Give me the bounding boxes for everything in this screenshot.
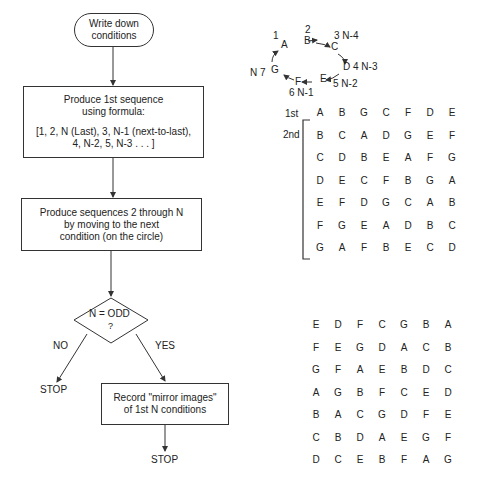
cell: G [371,404,393,427]
cell: C [397,192,419,215]
circle-node-f: F [295,76,301,87]
cell: D [393,404,415,427]
cell: E [393,427,415,450]
cell: G [327,382,349,405]
cell: B [397,170,419,193]
step1-line1: Produce 1st sequence [64,94,164,106]
cell: E [305,314,327,337]
cell: C [441,215,463,238]
cell: F [349,314,371,337]
cell: D [375,125,397,148]
cell: A [419,192,441,215]
cell: B [375,237,397,260]
cell: C [393,382,415,405]
cell: A [349,359,371,382]
cell: C [349,404,371,427]
step2-line3: condition (on the circle) [60,231,163,243]
start-terminal: Write down conditions [74,13,154,47]
circle-label-f: 6 N-1 [289,87,313,98]
cell: F [393,449,415,472]
cell: F [415,404,437,427]
cell: G [331,215,353,238]
decision-text-2: ? [108,321,113,331]
start-line1: Write down [89,18,139,30]
cell: A [327,404,349,427]
cell: C [419,237,441,260]
decision-text-1: N = ODD [89,308,130,319]
cell: G [309,237,331,260]
cell: G [353,102,375,125]
cell: C [305,427,327,450]
cell: C [375,102,397,125]
cell: G [419,170,441,193]
cell: G [397,125,419,148]
cell: F [397,102,419,125]
cell: G [437,449,459,472]
cell: G [375,192,397,215]
circle-label-e: 5 N-2 [333,78,357,89]
cell: A [331,237,353,260]
cell: C [353,170,375,193]
cell: F [419,147,441,170]
cell: C [331,125,353,148]
cell: E [375,147,397,170]
cell: A [375,215,397,238]
step-sequences-2-to-n: Produce sequences 2 through N by moving … [21,198,202,251]
cell: D [327,314,349,337]
cell: B [305,404,327,427]
cell: E [415,382,437,405]
cell: D [349,427,371,450]
step3-line2: of 1st N conditions [124,404,206,416]
yes-label: YES [155,340,175,351]
cell: A [353,125,375,148]
cell: F [441,125,463,148]
cell: A [397,147,419,170]
cell: F [327,359,349,382]
cell: D [309,170,331,193]
cell: G [305,359,327,382]
step2-line2: by moving to the next [64,219,159,231]
cell: F [371,382,393,405]
cell: B [331,102,353,125]
circle-label-a: 1 [273,30,279,41]
cell: D [437,382,459,405]
cell: A [305,382,327,405]
circle-node-e: E [320,73,327,84]
stop-no: STOP [40,384,67,395]
cell: B [419,215,441,238]
cell: B [309,125,331,148]
cell: B [441,192,463,215]
circle-node-c: C [331,41,338,52]
cell: D [441,237,463,260]
cell: F [437,427,459,450]
cell: E [331,170,353,193]
cell: A [371,427,393,450]
cell: E [437,404,459,427]
step1-line4: 4, N-2, 5, N-3 . . . ] [72,138,154,150]
circle-label-b: 2 [305,24,311,35]
circle-label-d: 4 N-3 [353,61,377,72]
cell: C [371,314,393,337]
mirror-grid: E D F C G B A F E G D A C B G F A E B D … [305,314,459,472]
step2-line1: Produce sequences 2 through N [40,207,183,219]
step1-line3: [1, 2, N (Last), 3, N-1 (next-to-last), [36,126,191,138]
cell: C [415,337,437,360]
cell: A [441,170,463,193]
cell: E [419,125,441,148]
cell: D [415,359,437,382]
cell: F [309,215,331,238]
cell: G [441,147,463,170]
cell: E [349,449,371,472]
cell: C [437,359,459,382]
cell: B [371,449,393,472]
cell: D [397,215,419,238]
cell: D [371,337,393,360]
stop-yes: STOP [151,454,178,465]
step1-line2: using formula: [82,106,145,118]
cell: E [397,237,419,260]
step3-line1: Record "mirror images" [113,392,216,404]
cell: F [305,337,327,360]
cell: B [349,382,371,405]
cell: D [419,102,441,125]
cell: E [327,337,349,360]
